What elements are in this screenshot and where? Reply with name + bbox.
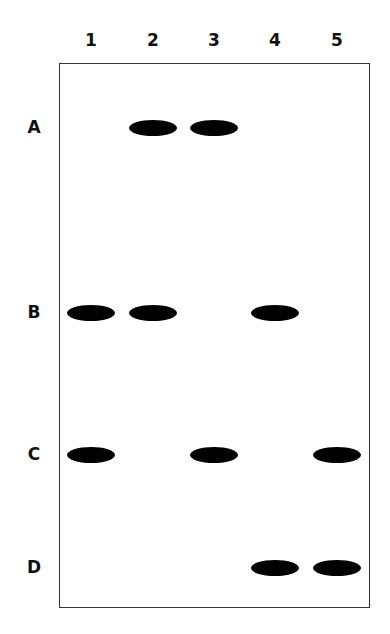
row-label-d: D — [24, 557, 44, 577]
lane-label-3: 3 — [204, 30, 224, 50]
band-b-lane-1 — [67, 305, 115, 321]
band-b-lane-4 — [251, 305, 299, 321]
lane-label-2: 2 — [143, 30, 163, 50]
lane-label-4: 4 — [265, 30, 285, 50]
row-label-b: B — [24, 302, 44, 322]
band-d-lane-4 — [251, 560, 299, 576]
band-a-lane-3 — [190, 120, 238, 136]
band-c-lane-3 — [190, 447, 238, 463]
band-b-lane-2 — [129, 305, 177, 321]
lane-label-5: 5 — [327, 30, 347, 50]
lane-label-1: 1 — [81, 30, 101, 50]
band-c-lane-5 — [313, 447, 361, 463]
gel-frame — [59, 63, 370, 608]
band-c-lane-1 — [67, 447, 115, 463]
band-d-lane-5 — [313, 560, 361, 576]
row-label-a: A — [24, 117, 44, 137]
band-a-lane-2 — [129, 120, 177, 136]
row-label-c: C — [24, 444, 44, 464]
